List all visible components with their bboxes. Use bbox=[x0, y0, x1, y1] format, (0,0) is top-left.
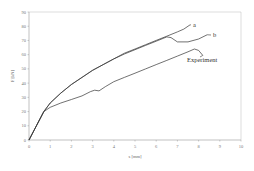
x-tick-label: 1 bbox=[49, 144, 51, 149]
force-displacement-chart: 0102030405060708090 012345678910 s [mm] … bbox=[0, 0, 254, 171]
series-line-b bbox=[29, 35, 207, 140]
x-tick-label: 4 bbox=[113, 144, 116, 149]
x-tick-label: 3 bbox=[91, 144, 94, 149]
series-label-b: b bbox=[213, 31, 216, 38]
x-axis-label: s [mm] bbox=[129, 154, 142, 159]
y-axis-ticks: 0102030405060708090 bbox=[22, 10, 30, 143]
y-tick-label: 50 bbox=[22, 66, 27, 71]
y-axis-label: F [kN] bbox=[10, 69, 15, 82]
plot-frame bbox=[29, 12, 241, 140]
y-tick-label: 70 bbox=[22, 38, 27, 43]
y-tick-label: 30 bbox=[22, 95, 27, 100]
x-tick-label: 9 bbox=[219, 144, 222, 149]
x-axis-ticks: 012345678910 bbox=[28, 140, 244, 149]
series-line-a bbox=[29, 25, 190, 140]
y-tick-label: 0 bbox=[24, 138, 27, 143]
x-tick-label: 6 bbox=[155, 144, 158, 149]
series-label-a: a bbox=[193, 21, 196, 28]
x-tick-label: 10 bbox=[239, 144, 244, 149]
x-tick-label: 7 bbox=[176, 144, 179, 149]
x-tick-label: 8 bbox=[197, 144, 200, 149]
y-tick-label: 90 bbox=[22, 10, 27, 15]
data-series bbox=[29, 25, 211, 140]
y-tick-label: 10 bbox=[22, 123, 27, 128]
y-tick-label: 40 bbox=[22, 81, 27, 86]
y-tick-label: 20 bbox=[22, 109, 27, 114]
x-tick-label: 2 bbox=[70, 144, 72, 149]
y-tick-label: 60 bbox=[22, 52, 27, 57]
x-tick-label: 0 bbox=[28, 144, 31, 149]
series-label-experiment: Experiment bbox=[187, 56, 218, 63]
series-line-experiment bbox=[29, 49, 203, 140]
x-tick-label: 5 bbox=[134, 144, 137, 149]
y-tick-label: 80 bbox=[22, 24, 27, 29]
